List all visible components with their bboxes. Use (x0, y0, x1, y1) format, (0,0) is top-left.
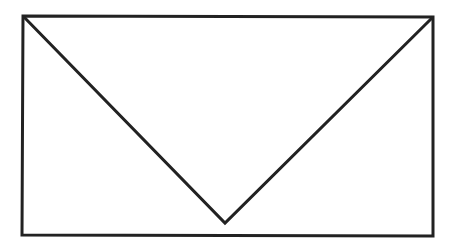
envelope-outline-rectangle (22, 16, 433, 236)
envelope-flap-v-lines (23, 16, 433, 223)
envelope-diagram (0, 0, 455, 249)
